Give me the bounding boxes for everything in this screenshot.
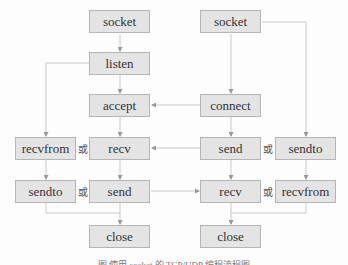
- or-label: 或: [78, 141, 88, 156]
- or-label: 或: [78, 184, 88, 199]
- server-listen-box: listen: [89, 52, 150, 75]
- client-close-box: close: [200, 225, 261, 248]
- server-close-box: close: [89, 225, 150, 248]
- client-recv-box: recv: [200, 180, 261, 203]
- server-recv-box: recv: [89, 137, 150, 160]
- server-send-box: send: [89, 180, 150, 203]
- connector-lines: [0, 0, 348, 265]
- or-label: 或: [263, 141, 273, 156]
- server-sendto-box: sendto: [15, 180, 76, 203]
- client-send-box: send: [200, 137, 261, 160]
- server-recvfrom-box: recvfrom: [15, 137, 76, 160]
- client-connect-box: connect: [200, 94, 261, 117]
- server-accept-box: accept: [89, 94, 150, 117]
- client-socket-box: socket: [200, 10, 261, 33]
- client-sendto-box: sendto: [275, 137, 336, 160]
- server-socket-box: socket: [89, 10, 150, 33]
- or-label: 或: [263, 184, 273, 199]
- client-recvfrom-box: recvfrom: [275, 180, 336, 203]
- socket-flow-diagram: socket listen accept recv send close rec…: [0, 0, 348, 265]
- figure-caption: 图 使用 socket 的 TCP/UDP 编程流程图: [0, 258, 348, 265]
